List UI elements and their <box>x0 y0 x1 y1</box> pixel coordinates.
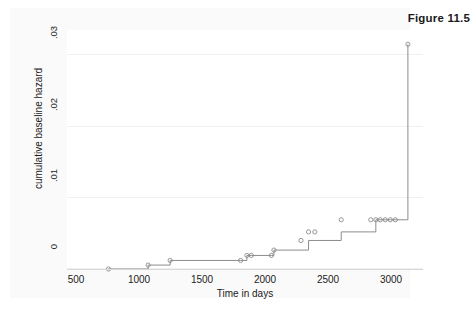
plot-area <box>67 30 423 269</box>
y-tick-label-02: .02 <box>48 92 59 118</box>
data-point-marker <box>313 230 317 234</box>
x-tick-label-1000: 1000 <box>117 274 161 285</box>
x-axis-title: Time in days <box>67 288 423 299</box>
y-tick-label-03: .03 <box>48 20 59 46</box>
figure-page: cumulative baseline hazard 0 .01 .02 .03… <box>0 0 476 320</box>
data-point-marker <box>369 218 373 222</box>
x-tick-label-1500: 1500 <box>180 274 224 285</box>
x-tick-label-2000: 2000 <box>243 274 287 285</box>
graph-region: cumulative baseline hazard 0 .01 .02 .03… <box>10 8 410 298</box>
step-function-plot <box>67 30 423 269</box>
x-axis-line <box>67 269 423 270</box>
data-point-marker <box>306 230 310 234</box>
data-point-marker <box>299 238 303 242</box>
x-tick-label-3000: 3000 <box>369 274 413 285</box>
data-point-markers <box>106 42 410 271</box>
y-tick-label-01: .01 <box>48 163 59 189</box>
x-tick-label-500: 500 <box>54 274 98 285</box>
y-axis-title: cumulative baseline hazard <box>33 54 44 204</box>
data-point-marker <box>339 218 343 222</box>
y-tick-label-0: 0 <box>48 234 59 260</box>
figure-caption: Figure 11.5 <box>408 12 470 24</box>
x-tick-label-2500: 2500 <box>306 274 350 285</box>
step-line <box>109 44 408 269</box>
